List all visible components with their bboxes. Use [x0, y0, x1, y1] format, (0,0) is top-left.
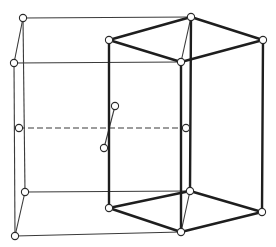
hex-bottom-edge — [109, 208, 181, 232]
atom-hex-top-left — [105, 36, 112, 43]
atom-hex-bottom-front — [177, 228, 184, 235]
crystal-structure-diagram — [0, 0, 276, 247]
atom-cube-bottom-front-left — [11, 232, 18, 239]
hex-top-edge — [191, 17, 263, 40]
cube-bottom-back-edge — [25, 191, 190, 192]
hex-top-edge — [181, 40, 263, 62]
hex-bottom-edge — [181, 212, 262, 232]
cubic-cell-edges — [14, 17, 191, 236]
hex-bottom-diagonal — [181, 191, 190, 232]
hex-top-edge — [109, 40, 181, 62]
atom-hex-top-front — [177, 58, 184, 65]
hex-bottom-edge — [190, 191, 262, 212]
atom-nodes — [10, 13, 266, 239]
atom-hex-top-right — [259, 36, 266, 43]
cube-back-left-vertical — [23, 18, 25, 192]
atom-cube-top-back-left — [19, 14, 26, 21]
atom-hex-bottom-back — [186, 187, 193, 194]
atom-hex-bottom-right — [258, 208, 265, 215]
atom-hex-top-back — [187, 13, 194, 20]
cube-top-back-edge — [23, 17, 191, 18]
hex-top-edge — [109, 17, 191, 40]
diagram-canvas — [0, 0, 276, 247]
cube-bottom-left-edge — [15, 192, 25, 236]
hex-vertical-edge — [190, 17, 191, 191]
hex-vertical-edge — [262, 40, 263, 212]
hex-top-diagonal — [181, 17, 191, 62]
hex-bottom-edge — [109, 191, 190, 208]
cube-bottom-front-edge — [15, 232, 181, 236]
cube-front-left-vertical — [14, 63, 15, 236]
atom-cube-mid-left — [15, 124, 22, 131]
atom-cube-bottom-back-left — [21, 188, 28, 195]
atom-cube-mid-right — [182, 124, 189, 131]
atom-inner-atom-lower — [100, 144, 107, 151]
atom-hex-bottom-left — [105, 204, 112, 211]
atom-inner-atom-upper — [111, 102, 118, 109]
cube-top-left-edge — [14, 18, 23, 63]
atom-cube-top-front-left — [10, 59, 17, 66]
cube-top-front-edge — [14, 62, 181, 63]
